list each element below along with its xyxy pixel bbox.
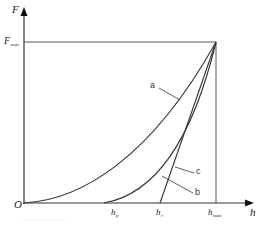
origin-label: O bbox=[14, 199, 22, 210]
curve-c-label: c bbox=[196, 167, 201, 176]
y-axis-label: F bbox=[12, 4, 19, 15]
fmax-label-main: F bbox=[4, 35, 10, 46]
leader-c bbox=[175, 167, 194, 173]
curve-a-loading bbox=[24, 42, 216, 203]
curve-b-label: b bbox=[195, 188, 200, 197]
x-axis-label: h bbox=[250, 207, 256, 218]
curve-a-label: a bbox=[150, 81, 155, 90]
leader-a bbox=[159, 88, 180, 100]
fmax-label-sub: max bbox=[11, 42, 19, 47]
figure-caption-remnant: …………………… bbox=[20, 216, 250, 222]
curve-b-unloading bbox=[104, 42, 216, 203]
line-c-tangent bbox=[160, 42, 216, 203]
fmax-label: Fmax bbox=[4, 36, 19, 47]
load-displacement-diagram bbox=[0, 0, 262, 225]
y-axis-arrow-icon bbox=[21, 7, 28, 16]
